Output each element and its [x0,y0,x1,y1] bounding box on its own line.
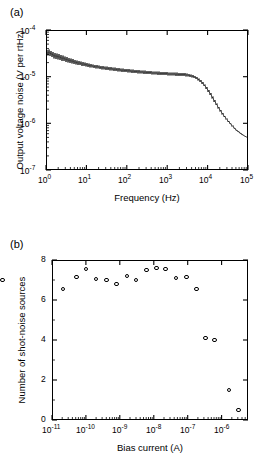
panel-a-xtick-5: 105 [240,173,253,185]
panel-a-xtick-1: 101 [78,173,91,185]
panel-a: (a) IB = 12 nA 1/f noise White noise low… [0,0,272,240]
panel-b-xtick-1e-10: 10-10 [76,423,95,435]
panel-a-ytick-1e-6: 10-6 [20,117,35,129]
data-point [104,278,109,283]
panel-a-axes-overlay [0,0,272,240]
panel-b: (b) Number of shot-noise sources Bias cu… [0,232,272,476]
panel-a-xtick-4: 104 [199,173,212,185]
data-point [184,275,189,280]
data-point [0,278,5,283]
data-point [163,267,168,272]
panel-a-xtick-2: 102 [118,173,131,185]
panel-b-ytick-4: 4 [41,334,46,344]
data-point [212,338,217,343]
data-point [144,268,149,273]
panel-b-xtick-1e-9: 10-9 [112,423,127,435]
panel-a-ytick-1e-4: 10-4 [20,24,35,36]
panel-b-ytick-6: 6 [41,294,46,304]
panel-b-ytick-8: 8 [41,254,46,264]
panel-b-ytick-0: 0 [41,414,46,424]
data-point [154,266,159,271]
panel-a-xtick-3: 103 [159,173,172,185]
data-point [236,408,241,413]
panel-b-ytick-2: 2 [41,374,46,384]
panel-b-xtick-1e-6: 10-6 [214,423,229,435]
panel-a-noise-trace [46,50,247,138]
panel-a-xtick-0: 100 [38,173,51,185]
panel-b-axes-overlay [0,232,272,476]
panel-a-ytick-1e-7: 10-7 [20,164,35,176]
panel-b-xtick-1e-8: 10-8 [146,423,161,435]
data-point [203,336,208,341]
data-point [194,287,199,292]
panel-a-ytick-1e-5: 10-5 [20,70,35,82]
panel-b-xtick-1e-11: 10-11 [42,423,60,435]
figure-root: (a) IB = 12 nA 1/f noise White noise low… [0,0,272,476]
data-point [114,282,119,287]
panel-b-xtick-1e-7: 10-7 [180,423,195,435]
